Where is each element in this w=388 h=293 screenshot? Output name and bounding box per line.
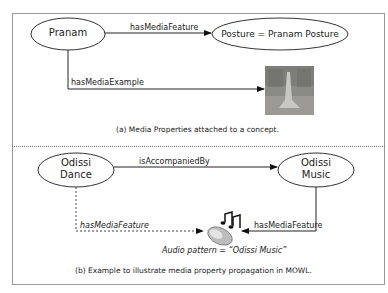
caption-a: (a) Media Properties attached to a conce… — [116, 125, 279, 134]
edge-has-media-example: hasMediaExample — [71, 78, 144, 87]
caption-b: (b) Example to illustrate media property… — [75, 266, 312, 275]
edge-has-media-feature-dance: hasMediaFeature — [80, 221, 149, 230]
audio-speaker-icon — [205, 212, 240, 249]
odissi-dance-node: Odissi Dance — [38, 157, 114, 181]
odissi-music-line1: Odissi — [278, 157, 354, 169]
edge-has-media-feature: hasMediaFeature — [130, 23, 198, 32]
pranam-node-label: Pranam — [31, 27, 105, 39]
posture-node-label: Posture = Pranam Posture — [212, 28, 348, 40]
odissi-music-line2: Music — [278, 169, 354, 181]
edge-is-accompanied-by: isAccompaniedBy — [139, 157, 210, 166]
edge-has-media-feature-music: hasMediaFeature — [254, 221, 322, 230]
posture-photo — [265, 66, 314, 115]
odissi-dance-line1: Odissi — [38, 157, 114, 169]
odissi-music-node: Odissi Music — [278, 157, 354, 181]
odissi-dance-line2: Dance — [38, 169, 114, 181]
audio-pattern-label: Audio pattern = “Odissi Music” — [162, 246, 286, 255]
